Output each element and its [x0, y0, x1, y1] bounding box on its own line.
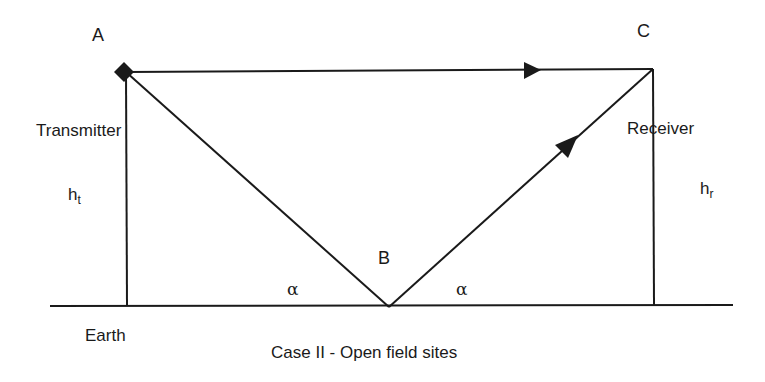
receiver-mast: [653, 69, 654, 305]
angle-alpha-right: α: [456, 281, 467, 298]
receiver-label: Receiver: [627, 120, 694, 137]
transmitter-height-label: ht: [68, 186, 81, 206]
earth-label: Earth: [85, 327, 126, 344]
point-label-b: B: [378, 249, 390, 267]
transmitter-mast: [126, 72, 127, 306]
transmitter-label: Transmitter: [36, 122, 121, 139]
angle-alpha-left: α: [287, 281, 298, 298]
direct-path: [126, 69, 653, 72]
diagram-caption: Case II - Open field sites: [271, 344, 457, 361]
hr-subscript: r: [709, 187, 713, 201]
direct-path-arrow-icon: [524, 62, 541, 79]
point-label-a: A: [92, 26, 104, 44]
reflected-path: [389, 69, 653, 307]
ht-subscript: t: [77, 193, 80, 207]
point-label-c: C: [637, 22, 650, 40]
transmitter-node-icon: [114, 62, 134, 82]
ray-diagram: [0, 0, 765, 382]
receiver-height-label: hr: [700, 180, 713, 200]
incident-path: [126, 72, 389, 307]
